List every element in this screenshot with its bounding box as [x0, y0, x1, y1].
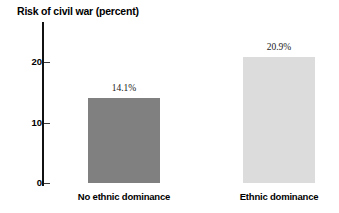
y-axis-tick-label: 20	[10, 56, 42, 67]
y-axis-tick-mark	[44, 123, 50, 124]
y-axis-tick-mark	[44, 62, 50, 63]
y-axis-tick-mark	[44, 183, 50, 184]
plot-area: 01020 14.1%No ethnic dominance20.9%Ethni…	[0, 0, 339, 213]
bar-no-ethnic-dominance	[88, 98, 160, 183]
bar-value-label: 14.1%	[88, 83, 160, 93]
y-axis-line	[42, 22, 44, 186]
bar-chart: Risk of civil war (percent) 01020 14.1%N…	[0, 0, 339, 213]
y-axis-tick-label: 0	[10, 177, 42, 188]
x-axis-category-label: Ethnic dominance	[222, 191, 336, 202]
x-axis-category-label: No ethnic dominance	[60, 191, 188, 202]
y-axis-tick-label: 10	[10, 117, 42, 128]
bar-value-label: 20.9%	[243, 42, 315, 52]
bar-ethnic-dominance	[243, 57, 315, 183]
